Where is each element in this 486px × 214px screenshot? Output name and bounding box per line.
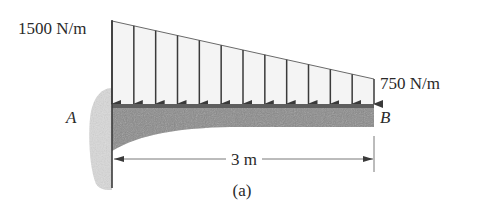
distributed-load bbox=[112, 21, 374, 104]
fixed-support-wall bbox=[89, 88, 112, 190]
right-load-label: 750 N/m bbox=[380, 74, 440, 93]
point-b-label: B bbox=[380, 108, 391, 127]
point-a-label: A bbox=[65, 108, 77, 127]
figure-caption: (a) bbox=[233, 181, 252, 200]
left-load-label: 1500 N/m bbox=[18, 19, 86, 38]
length-dimension: 3 m bbox=[114, 136, 374, 172]
length-label: 3 m bbox=[231, 150, 257, 169]
beam bbox=[112, 104, 374, 151]
beam-top-strip bbox=[112, 104, 374, 108]
cantilever-beam-diagram: 3 m 1500 N/m 750 N/m A B (a) bbox=[0, 0, 486, 214]
